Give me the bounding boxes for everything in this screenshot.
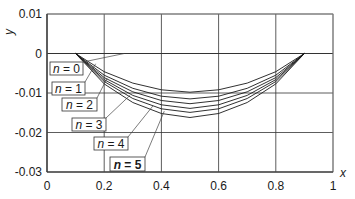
series-label-n4: n = 4 bbox=[97, 137, 124, 151]
y-tick-label: -0.01 bbox=[15, 86, 43, 100]
y-tick-label: -0.03 bbox=[15, 165, 43, 179]
series-line-n2 bbox=[76, 54, 305, 104]
series-label-n5: n = 5 bbox=[114, 158, 142, 172]
series-labels: n = 0n = 1n = 2n = 3n = 4n = 5 bbox=[50, 54, 164, 172]
y-tick-label: -0.02 bbox=[15, 126, 43, 140]
leader-line bbox=[106, 95, 130, 118]
y-tick-labels: 0.010-0.01-0.02-0.03 bbox=[15, 7, 43, 179]
x-tick-label: 0 bbox=[44, 179, 51, 193]
series-label-n1: n = 1 bbox=[55, 82, 82, 96]
y-axis-label: y bbox=[2, 28, 16, 36]
x-tick-label: 1 bbox=[330, 179, 337, 193]
y-tick-label: 0.01 bbox=[19, 7, 43, 21]
data-series bbox=[76, 54, 305, 118]
chart: 00.20.40.60.81 0.010-0.01-0.02-0.03 x y … bbox=[0, 0, 355, 199]
series-label-n2: n = 2 bbox=[66, 98, 93, 112]
x-tick-label: 0.6 bbox=[210, 179, 227, 193]
leader-line bbox=[83, 54, 124, 63]
x-axis-label: x bbox=[339, 166, 347, 180]
series-line-n5 bbox=[76, 54, 305, 118]
gridlines bbox=[47, 14, 333, 172]
x-tick-label: 0.8 bbox=[267, 179, 284, 193]
series-line-n3 bbox=[76, 54, 305, 109]
x-tick-label: 0.4 bbox=[153, 179, 170, 193]
x-tick-label: 0.2 bbox=[96, 179, 113, 193]
series-line-n0 bbox=[76, 54, 305, 93]
series-label-n3: n = 3 bbox=[75, 118, 102, 132]
y-tick-label: 0 bbox=[35, 47, 42, 61]
series-label-n0: n = 0 bbox=[53, 62, 80, 76]
x-tick-labels: 00.20.40.60.81 bbox=[44, 179, 337, 193]
